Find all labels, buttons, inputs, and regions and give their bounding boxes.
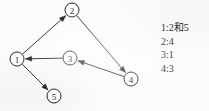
adjacency-list: 1:2和52:43:14:3 bbox=[161, 21, 207, 75]
edge-2-to-4-line bbox=[77, 16, 126, 73]
graph-node-3: 3 bbox=[63, 51, 77, 65]
edge-4-to-3-arrowhead-icon bbox=[78, 60, 85, 65]
edge-1-to-2 bbox=[23, 16, 66, 54]
graph-node-1: 1 bbox=[10, 52, 24, 66]
graph-node-1-label: 1 bbox=[15, 55, 20, 65]
adjacency-line-3: 3:1 bbox=[161, 48, 207, 62]
graph-node-3-label: 3 bbox=[68, 54, 73, 64]
graph-node-5-label: 5 bbox=[52, 92, 57, 102]
edge-3-to-1 bbox=[25, 56, 62, 61]
graph-node-5: 5 bbox=[47, 89, 61, 103]
graph-node-2-label: 2 bbox=[70, 6, 75, 16]
edge-1-to-5 bbox=[22, 64, 48, 90]
adjacency-line-1: 1:2和5 bbox=[161, 21, 207, 35]
edge-1-to-2-line bbox=[23, 16, 66, 54]
graph-node-4: 4 bbox=[124, 72, 138, 86]
diagram-page: 12345 1:2和52:43:14:3 bbox=[0, 0, 209, 111]
graph-node-4-label: 4 bbox=[129, 75, 134, 85]
graph-node-2: 2 bbox=[65, 3, 79, 17]
adjacency-line-2: 2:4 bbox=[161, 35, 207, 49]
edge-2-to-4 bbox=[77, 16, 126, 73]
edge-3-to-1-arrowhead-icon bbox=[25, 56, 31, 61]
adjacency-line-4: 4:3 bbox=[161, 62, 207, 76]
